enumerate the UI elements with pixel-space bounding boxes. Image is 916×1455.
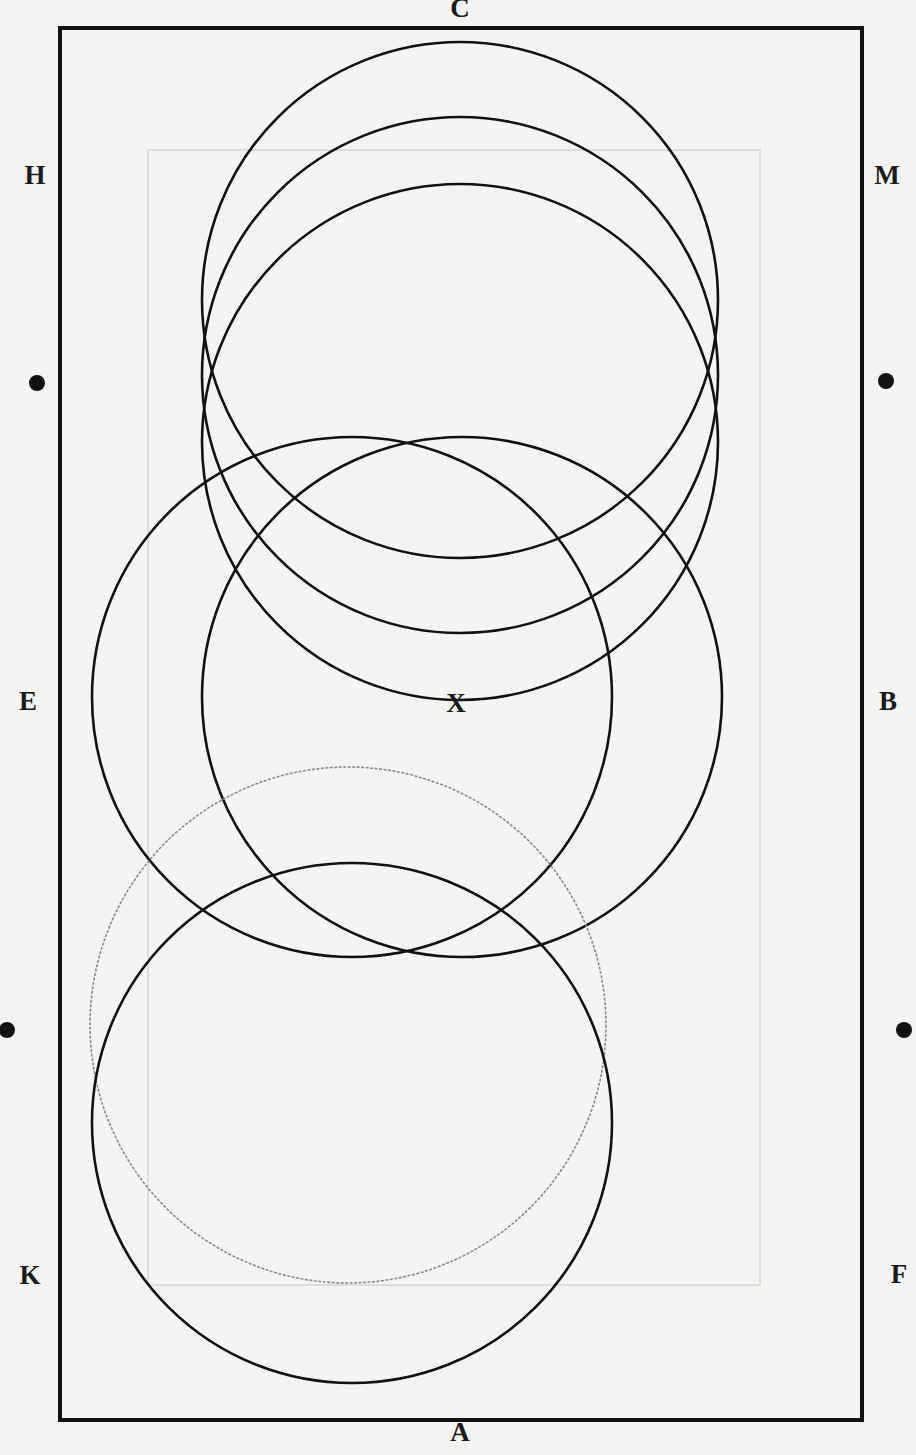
ghost-rectangle: [148, 150, 760, 1285]
circle-top-1: [202, 42, 718, 558]
letter-f: F: [891, 1261, 908, 1288]
circle-top-3: [202, 184, 718, 700]
letter-x: X: [446, 690, 466, 717]
circle-top-2: [202, 117, 718, 633]
letter-k: K: [19, 1262, 40, 1289]
circle-group: [90, 42, 722, 1383]
circle-mid-left: [92, 437, 612, 957]
letter-m: M: [874, 162, 899, 189]
circle-faint: [90, 767, 606, 1283]
letter-b: B: [879, 688, 897, 715]
arena-border: [60, 28, 862, 1420]
arena-diagram: [0, 0, 916, 1455]
marker-dot-icon: [29, 375, 45, 391]
letter-h: H: [24, 162, 45, 189]
letter-e: E: [19, 688, 37, 715]
circle-bottom: [92, 863, 612, 1383]
letter-c: C: [450, 0, 470, 22]
marker-dot-icon: [896, 1022, 912, 1038]
letter-a: A: [450, 1419, 470, 1446]
marker-dot-icon: [878, 373, 894, 389]
